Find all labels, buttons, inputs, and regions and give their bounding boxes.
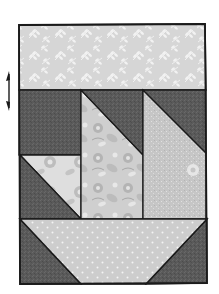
top-band-piece (19, 24, 206, 90)
quilt-block-diagram (0, 0, 219, 294)
left-upper-square-piece (19, 90, 81, 155)
right-column-flower-motif (187, 164, 199, 176)
double-arrow-icon (6, 71, 10, 111)
